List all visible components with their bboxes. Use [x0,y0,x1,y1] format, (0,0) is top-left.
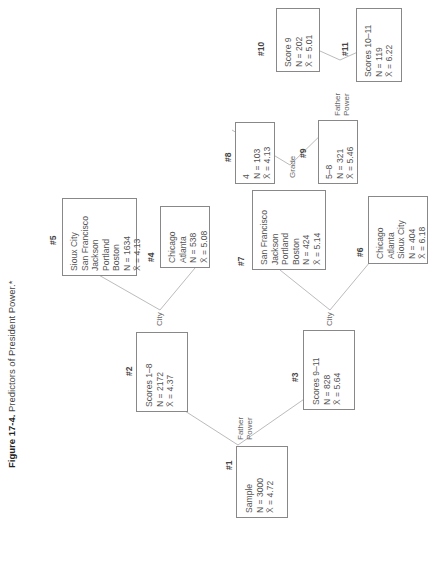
figure-caption: Figure 17-4. Predictors of President Pow… [6,281,17,468]
node-9-label: 5–8 [324,147,335,179]
node-8-box: 4 N = 103 X̄ = 4.13 [235,122,275,184]
node-11-box: Scores 10–11 N = 119 X̄ = 6.22 [356,8,402,82]
edge-label-split-1: FatherPower [236,417,254,440]
node-8-n: N = 103 [252,147,263,179]
node-7-city-1: San Francisco [259,210,270,265]
node-9-mean: X̄ = 5.46 [345,147,356,179]
node-9-id: #9 [298,149,308,158]
figure-label: Figure 17-4. [6,415,17,468]
node-5-box: Sioux City San Francisco Jackson Portlan… [62,198,137,276]
node-11-id: #11 [340,42,350,56]
node-4-mean: X̄ = 5.08 [199,231,210,263]
node-2-mean: X̄ = 4.37 [165,364,176,407]
node-11-n: N = 119 [374,25,385,77]
node-8-mean: X̄ = 4.13 [262,147,273,179]
node-8-label: 4 [241,147,252,179]
node-3-id: #3 [290,373,300,382]
node-4-city-2: Atlanta [178,231,189,263]
node-6-mean: X̄ = 6.18 [417,220,428,259]
node-10-box: Score 9 N = 202 X̄ = 5.01 [276,8,320,72]
node-5-city-5: Boston [111,216,122,271]
node-6-city-1: Chicago [375,220,386,259]
node-6-city-3: Sioux City [396,220,407,259]
node-7-city-4: Boston [291,210,302,265]
node-7-city-2: Jackson [270,210,281,265]
edge-label-split-3: City [325,312,334,326]
edge-label-split-2: City [155,312,164,326]
node-7-box: San Francisco Jackson Portland Boston N … [252,190,326,270]
figure-title: Predictors of President Power.* [6,281,17,412]
node-7-id: #7 [236,257,246,266]
tree-connector-lines [0,0,433,572]
node-5-id: #5 [48,236,58,245]
node-4-box: Chicago Atlanta N = 538 X̄ = 5.08 [160,206,210,268]
node-4-id: #4 [146,253,156,262]
node-10-id: #10 [256,42,266,56]
edge-label-split-7: Grade [288,156,297,178]
node-9-n: N = 321 [335,147,346,179]
node-3-mean: X̄ = 5.64 [332,357,343,405]
node-5-mean: X̄ = 4.13 [132,216,143,271]
node-6-city-2: Atlanta [386,220,397,259]
node-2-id: #2 [124,367,134,376]
node-6-n: N = 404 [407,220,418,259]
node-5-n: N = 1634 [122,216,133,271]
node-7-mean: X̄ = 5.14 [312,210,323,265]
node-4-city-1: Chicago [167,231,178,263]
node-10-mean: X̄ = 5.01 [304,35,315,67]
node-6-box: Chicago Atlanta Sioux City N = 404 X̄ = … [368,196,428,264]
node-8-id: #8 [223,153,233,162]
node-1-mean: X̄ = 4.72 [265,478,276,513]
node-4-n: N = 538 [188,231,199,263]
node-11-label: Scores 10–11 [363,25,374,77]
node-1-n: N = 3000 [255,478,266,513]
node-1-box: Sample N = 3000 X̄ = 4.72 [236,446,288,518]
node-1-label: Sample [244,478,255,513]
node-3-label: Scores 9–11 [311,357,322,405]
node-10-n: N = 202 [294,35,305,67]
node-7-city-3: Portland [280,210,291,265]
node-10-label: Score 9 [283,35,294,67]
node-5-city-1: Sioux City [69,216,80,271]
node-2-n: N = 2172 [155,364,166,407]
node-3-box: Scores 9–11 N = 828 X̄ = 5.64 [303,330,355,410]
node-11-mean: X̄ = 6.22 [384,25,395,77]
node-3-n: N = 828 [322,357,333,405]
edge-label-split-9: FatherPower [333,93,351,116]
node-9-box: 5–8 N = 321 X̄ = 5.46 [318,120,358,184]
node-7-n: N = 424 [301,210,312,265]
node-5-city-4: Portland [101,216,112,271]
node-6-id: #6 [355,248,365,257]
node-5-city-2: San Francisco [80,216,91,271]
node-5-city-3: Jackson [90,216,101,271]
node-2-label: Scores 1–8 [144,364,155,407]
node-2-box: Scores 1–8 N = 2172 X̄ = 4.37 [136,332,188,412]
node-1-id: #1 [224,461,234,470]
